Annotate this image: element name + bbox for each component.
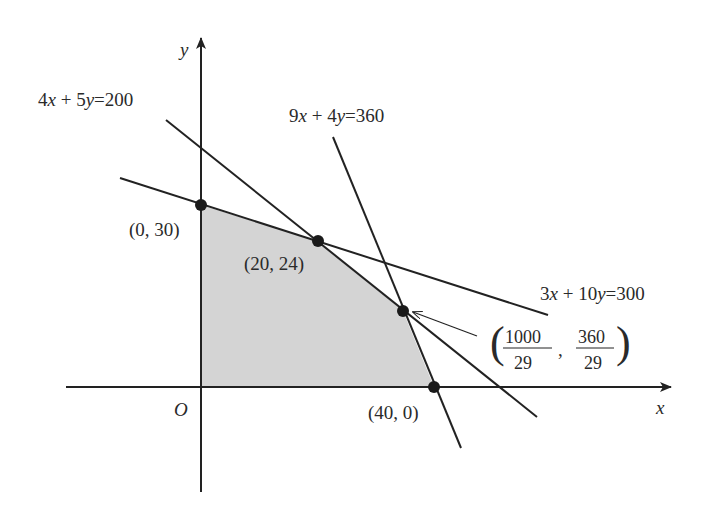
left-paren: ( [490,318,505,367]
origin-label: O [174,399,188,420]
frac-comma: , [558,339,563,360]
y-axis-label: y [178,39,189,60]
vertex-label-20-24: (20, 24) [244,253,304,275]
frac-x-denominator: 29 [514,353,532,373]
frac-y-denominator: 29 [584,353,602,373]
frac-x-numerator: 1000 [505,327,541,347]
vertex-dot-40-0 [428,381,440,393]
vertex-dot-0-30 [195,199,207,211]
right-paren: ) [616,318,631,367]
lp-diagram: y x O 4x + 5y=200 9x + 4y=360 3x + 10y=3… [0,0,721,524]
vertex-label-40-0: (40, 0) [368,402,419,424]
vertex-label-0-30: (0, 30) [129,219,180,241]
x-axis-label: x [655,397,665,418]
pointer-arrow [413,312,477,336]
frac-y-numerator: 360 [578,327,605,347]
constraint-label-4x5y200: 4x + 5y=200 [38,89,133,110]
vertex-label-frac: ( 1000 29 , 360 29 ) [490,318,631,373]
constraint-label-3x10y300: 3x + 10y=300 [540,283,645,304]
constraint-label-9x4y360: 9x + 4y=360 [289,105,384,126]
vertex-dot-20-24 [312,235,324,247]
vertex-dot-frac [397,305,409,317]
